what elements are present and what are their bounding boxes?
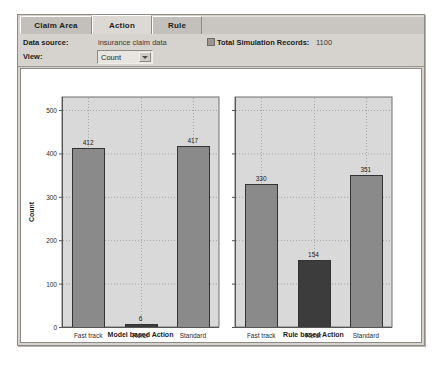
bar-value-label: 351 [360,166,371,173]
x-axis-title: Rule based Action [283,331,344,338]
chart-panel-rule-based-action: 330154351Fast trackReferActionStandardRu… [232,97,392,343]
bar [73,149,105,328]
y-axis-tick-label: 0 [53,324,57,331]
y-axis-tick-label: 500 [46,107,57,114]
bar-value-label: 330 [256,175,267,182]
tab-claim-area[interactable]: Claim Area [20,16,92,34]
y-axis-tick-label: 100 [46,281,57,288]
chevron-down-icon[interactable] [139,52,151,62]
data-source-value: insurance claim data [98,38,167,47]
tab-action[interactable]: Action [92,15,152,34]
view-select-value: Count [101,53,121,62]
view-select[interactable]: Count [97,50,153,64]
tab-strip: Claim Area Action Rule [18,15,424,34]
analysis-window: Claim Area Action Rule Data source: insu… [17,14,425,346]
bar-value-label: 417 [187,137,198,144]
tab-strip-filler [202,16,424,35]
bar-charts-svg: 0100200300400500Count4126417Fast trackRe… [21,69,422,343]
bar [351,176,383,328]
y-axis-tick-label: 300 [46,194,57,201]
info-bar: Data source: insurance claim data View: … [18,34,424,67]
bar-value-label: 154 [308,251,319,258]
x-axis-title: Model based Action [108,331,174,338]
x-axis-category-label: Fast track [247,332,276,339]
chart-panel-model-based-action: 0100200300400500Count4126417Fast trackRe… [28,97,219,343]
x-axis-category-label: Action [131,341,149,344]
records-badge-icon [207,38,215,46]
x-axis-category-label: Action [304,341,322,344]
total-records-value: 1100 [316,38,332,47]
total-records-label: Total Simulation Records: [217,38,309,47]
bar [178,147,210,328]
bar [299,261,331,328]
x-axis-category-label: Standard [353,332,380,339]
bar-value-label: 6 [139,315,143,322]
y-axis-title: Count [28,201,35,222]
bar [246,185,278,328]
tab-rule[interactable]: Rule [152,16,202,34]
bar-value-label: 412 [83,139,94,146]
data-source-label: Data source: [23,38,68,47]
view-label: View: [23,52,42,61]
chart-area: 0100200300400500Count4126417Fast trackRe… [20,68,422,343]
y-axis-tick-label: 200 [46,237,57,244]
x-axis-category-label: Standard [180,332,207,339]
x-axis-category-label: Fast track [74,332,103,339]
y-axis-tick-label: 400 [46,150,57,157]
